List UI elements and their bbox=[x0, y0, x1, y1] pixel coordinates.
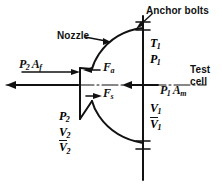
fs-sub: s bbox=[111, 92, 114, 101]
p1am-arrow-head bbox=[122, 81, 132, 89]
state-P2: P2 bbox=[59, 109, 71, 125]
p2af-sub2: f bbox=[39, 63, 42, 72]
nozzle-throat-bottom-edge bbox=[80, 101, 92, 119]
state-V2: V2 bbox=[59, 125, 71, 141]
shear-force-label: Fs bbox=[103, 87, 114, 101]
fs-base: F bbox=[103, 86, 111, 100]
p2af-leader-head bbox=[71, 69, 80, 75]
fa-base: F bbox=[103, 60, 111, 74]
exit-pressure-force-label: P2Af bbox=[19, 58, 42, 72]
diagram-canvas: Anchor bolts Nozzle Test cell P2Af Fa Fs… bbox=[0, 0, 222, 186]
inlet-pressure-force-label: P1Am bbox=[160, 84, 187, 98]
thrust-arrow-left-head bbox=[6, 81, 16, 89]
upstream-state-stack: T1 P1 bbox=[150, 36, 161, 67]
state-V1: V1 bbox=[150, 101, 162, 117]
state-P1: P1 bbox=[150, 52, 161, 68]
axial-force-label: Fa bbox=[103, 61, 115, 75]
state-V1-bar: V1 bbox=[150, 117, 162, 133]
p1am-sub2: m bbox=[180, 89, 186, 98]
test-cell-line-2: cell bbox=[190, 76, 210, 88]
test-cell-label: Test cell bbox=[190, 64, 210, 87]
anchor-bolts-label: Anchor bolts bbox=[146, 6, 209, 16]
state-V2-bar: V2 bbox=[59, 140, 71, 156]
state-T1: T1 bbox=[150, 36, 161, 52]
p1am-sub: 1 bbox=[167, 89, 171, 98]
test-cell-line-1: Test bbox=[190, 64, 210, 76]
nozzle-lower-contour bbox=[92, 101, 143, 143]
nozzle-upper-contour bbox=[92, 28, 143, 69]
downstream-state-stack: P2 V2 V2 bbox=[59, 109, 71, 156]
nozzle-label: Nozzle bbox=[57, 31, 89, 41]
p2af-sub: 2 bbox=[26, 63, 30, 72]
fa-sub: a bbox=[111, 66, 115, 75]
upstream-velocity-stack: V1 V1 bbox=[150, 101, 162, 132]
fs-arrow-head bbox=[93, 93, 102, 99]
